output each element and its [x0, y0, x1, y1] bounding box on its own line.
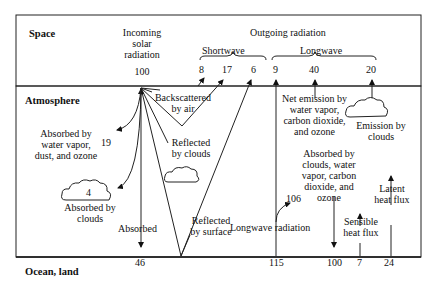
latent-heat-flux-label: Latent heat flux [371, 183, 413, 205]
absorbed-clouds-water-label: Absorbed by clouds, water vapor, carbon … [296, 148, 362, 203]
longwave-value-net-emission: 40 [309, 64, 319, 75]
absorbed-clouds-value: 4 [86, 187, 91, 198]
longwave-value-surface: 9 [273, 64, 278, 75]
outgoing-title: Outgoing radiation [250, 27, 326, 38]
zone-label-space: Space [29, 28, 55, 39]
surface-sensible-value: 7 [357, 257, 362, 268]
shortwave-label: Shortwave [202, 45, 245, 56]
absorbed-label: Absorbed [118, 223, 157, 234]
absorbed-water-vapor-label: Absorbed by water vapor, dust, and ozone [26, 128, 106, 161]
longwave-value-clouds: 20 [366, 64, 376, 75]
absorbed-clouds-water-value: 106 [286, 193, 301, 204]
absorbed-clouds-label: Absorbed by clouds [58, 202, 122, 224]
emission-clouds-label: Emission by clouds [354, 120, 408, 142]
net-emission-label: Net emission by water vapor, carbon diox… [277, 93, 352, 137]
reflected-clouds-label: Reflected by clouds [166, 137, 216, 159]
shortwave-value-clouds: 17 [222, 64, 232, 75]
cloud-reflect-icon [164, 167, 198, 182]
shortwave-value-backscatter: 8 [199, 64, 204, 75]
incoming-value: 100 [131, 66, 153, 77]
surface-back-radiation-value: 100 [327, 257, 342, 268]
surface-absorbed-value: 46 [135, 257, 145, 268]
longwave-label: Longwave [300, 45, 342, 56]
shortwave-value-surface: 6 [251, 64, 256, 75]
zone-label-surface: Ocean, land [25, 266, 79, 277]
longwave-radiation-label: Longwave radiation [230, 222, 310, 233]
surface-longwave-value: 115 [269, 257, 284, 268]
backscattered-label: Backscattered by air [150, 92, 216, 114]
earth-energy-budget-diagram: Space Atmosphere Ocean, land Incoming so… [0, 0, 438, 291]
zone-label-atmosphere: Atmosphere [25, 95, 80, 106]
absorbed-water-vapor-value: 19 [101, 137, 111, 148]
incoming-label: Incoming solar radiation [119, 27, 165, 60]
sensible-heat-flux-label: Sensible heat flux [340, 216, 382, 238]
surface-latent-value: 24 [384, 257, 394, 268]
